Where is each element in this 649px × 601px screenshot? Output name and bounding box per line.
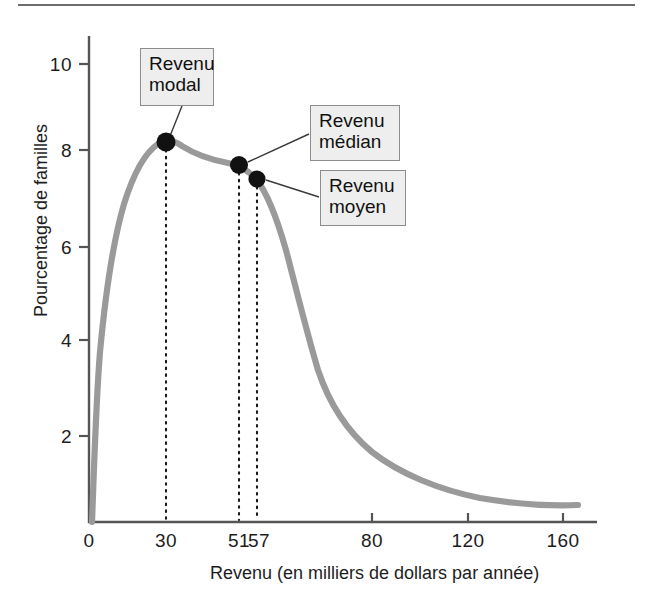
y-tick-label-10: 10	[28, 54, 72, 76]
x-axis-ticks	[372, 513, 563, 522]
callout-revenu-modal: Revenu modal	[140, 48, 214, 106]
y-axis-ticks	[79, 64, 89, 436]
y-tick-label-2: 2	[28, 426, 72, 448]
x-tick-label-30: 30	[146, 530, 186, 552]
marker-revenu-median	[230, 156, 248, 174]
y-axis-title: Pourcentage de familles	[31, 106, 52, 336]
x-tick-label-80: 80	[352, 530, 392, 552]
x-tick-label-0: 0	[69, 530, 109, 552]
callout-median-line1: Revenu	[319, 110, 391, 131]
x-axis-title: Revenu (en milliers de dollars par année…	[210, 563, 539, 584]
callout-modal-line2: modal	[149, 74, 205, 95]
x-tick-label-160: 160	[538, 530, 588, 552]
x-tick-label-120: 120	[443, 530, 493, 552]
callout-revenu-moyen: Revenu moyen	[320, 170, 406, 226]
plot-area	[0, 0, 649, 601]
droplines	[166, 150, 257, 520]
income-distribution-figure: 10 8 6 4 2 0 30 51 57 80 120 160 Pourcen…	[0, 0, 649, 601]
x-tick-label-57: 57	[239, 530, 279, 552]
callout-moyen-line2: moyen	[329, 196, 397, 217]
callout-modal-line1: Revenu	[149, 53, 205, 74]
callout-revenu-median: Revenu médian	[310, 105, 400, 161]
marker-revenu-moyen	[248, 170, 265, 187]
marker-revenu-modal	[157, 133, 176, 152]
callout-moyen-line1: Revenu	[329, 175, 397, 196]
callout-median-line2: médian	[319, 131, 391, 152]
